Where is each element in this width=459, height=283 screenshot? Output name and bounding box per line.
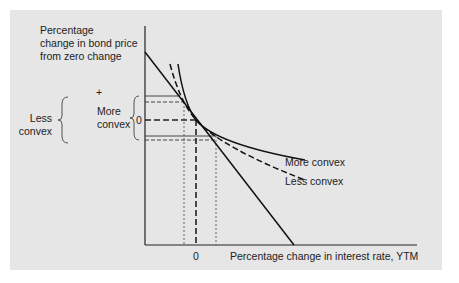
plus-marker: + [96, 86, 102, 98]
more-convex-curve [178, 64, 305, 160]
x-zero-label: 0 [193, 250, 199, 262]
convexity-diagram: Percentage change in bond price from zer… [0, 0, 459, 283]
duration-tangent-line [145, 52, 294, 245]
y-axis-label-3: from zero change [40, 50, 122, 62]
y-zero-label: 0 [136, 114, 142, 126]
more-convex-label-2: convex [97, 118, 131, 130]
curve-label-more-convex: More convex [285, 156, 346, 168]
y-axis-label-2: change in bond price [40, 37, 138, 49]
less-convex-brace [58, 97, 68, 143]
y-axis-label-1: Percentage [40, 24, 94, 36]
curve-label-less-convex: Less convex [285, 175, 344, 187]
x-axis-label: Percentage change in interest rate, YTM [230, 250, 418, 262]
less-convex-label-2: convex [19, 125, 53, 137]
less-convex-label-1: Less [30, 112, 52, 124]
more-convex-label-1: More [97, 105, 121, 117]
